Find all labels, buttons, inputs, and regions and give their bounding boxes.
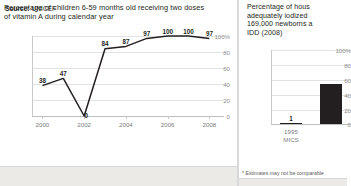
bar-value-label: 1 xyxy=(289,115,293,122)
vitamin-a-line-series xyxy=(6,24,230,142)
source-bar xyxy=(0,166,238,186)
source-note: Source:UNICEF xyxy=(5,5,56,12)
source-value: UNICEF xyxy=(32,5,57,12)
vitamin-a-plot: 020406080100%200020022004200620083847084… xyxy=(6,24,230,142)
iodized-salt-plot: 020406080100%1995MICS 1 xyxy=(247,40,351,146)
bar xyxy=(280,123,302,124)
iodized-salt-panel: Percentage of hous adequately iodized 16… xyxy=(238,0,346,186)
bar xyxy=(320,84,342,124)
right-footer-bar xyxy=(239,178,347,186)
iodized-salt-footnote: * Estimates may not be comparable xyxy=(242,170,347,176)
iodized-salt-bar-series: 1 xyxy=(247,40,351,146)
data-line xyxy=(42,36,209,116)
vitamin-a-panel: Percentage of children 6-59 months old r… xyxy=(0,0,238,186)
iodized-salt-chart-title: Percentage of hous adequately iodized 16… xyxy=(247,3,346,37)
source-label: Source: xyxy=(5,5,30,12)
